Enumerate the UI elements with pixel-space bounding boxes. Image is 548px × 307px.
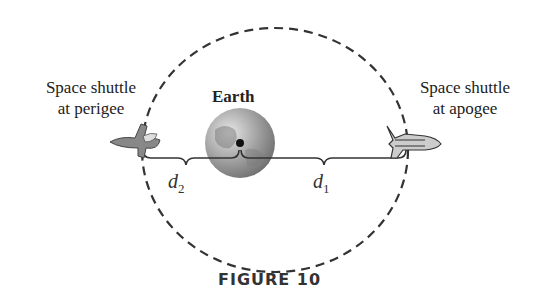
apogee-label: Space shuttle at apogee [400, 77, 530, 119]
apogee-label-line2: at apogee [400, 98, 530, 119]
d2-subscript: 2 [178, 181, 185, 196]
d2-var: d [168, 170, 178, 192]
earth-icon [205, 108, 275, 178]
orbit-ellipse [142, 28, 408, 272]
perigee-label: Space shuttle at perigee [26, 77, 156, 119]
orbit-diagram [0, 0, 548, 307]
distance-d2-label: d2 [168, 170, 185, 197]
apogee-label-line1: Space shuttle [400, 77, 530, 98]
earth-label: Earth [212, 87, 255, 107]
d1-subscript: 1 [323, 181, 330, 196]
distance-d1-label: d1 [313, 170, 330, 197]
perigee-label-line2: at perigee [26, 98, 156, 119]
perigee-label-line1: Space shuttle [26, 77, 156, 98]
shuttle-perigee-icon [110, 124, 160, 158]
shuttle-apogee-icon [387, 126, 441, 158]
d1-var: d [313, 170, 323, 192]
figure-caption: FIGURE 10 [218, 270, 321, 289]
